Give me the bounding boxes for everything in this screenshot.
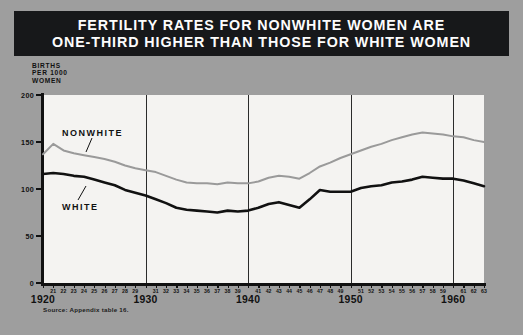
x-year-label-37: 37 bbox=[214, 288, 220, 294]
source-note: Source: Appendix table 16. bbox=[43, 306, 129, 313]
x-year-label-49: 49 bbox=[337, 288, 343, 294]
title-banner: FERTILITY RATES FOR NONWHITE WOMEN ARE O… bbox=[14, 11, 509, 56]
x-year-label-41: 41 bbox=[255, 288, 261, 294]
gridline-1930 bbox=[146, 95, 147, 283]
x-year-label-46: 46 bbox=[307, 288, 313, 294]
y-axis-caption: BIRTHS PER 1000 WOMEN bbox=[32, 62, 68, 84]
x-year-label-32: 32 bbox=[163, 288, 169, 294]
x-year-label-44: 44 bbox=[286, 288, 292, 294]
x-decade-label-1960: 1960 bbox=[441, 294, 465, 305]
y-tick-label: 0 bbox=[8, 279, 34, 288]
y-tick-label: 150 bbox=[8, 138, 34, 147]
x-tick-mark bbox=[43, 284, 44, 288]
x-year-label-58: 58 bbox=[430, 288, 436, 294]
gridline-1940 bbox=[248, 95, 249, 283]
x-tick-mark bbox=[351, 284, 352, 288]
x-decade-label-1930: 1930 bbox=[133, 294, 157, 305]
title-line-1: FERTILITY RATES FOR NONWHITE WOMEN ARE bbox=[78, 17, 446, 34]
y-tick-mark bbox=[36, 141, 41, 143]
x-year-label-27: 27 bbox=[112, 288, 118, 294]
y-tick-mark bbox=[36, 188, 41, 190]
x-year-label-57: 57 bbox=[419, 288, 425, 294]
x-year-label-63: 63 bbox=[481, 288, 487, 294]
y-tick-label: 50 bbox=[8, 232, 34, 241]
y-axis-caption-line-1: BIRTHS bbox=[32, 62, 68, 69]
y-tick-mark bbox=[36, 94, 41, 96]
x-year-label-25: 25 bbox=[91, 288, 97, 294]
gridline-1960 bbox=[453, 95, 454, 283]
y-axis-caption-line-3: WOMEN bbox=[32, 77, 68, 84]
x-year-label-48: 48 bbox=[327, 288, 333, 294]
x-axis-line bbox=[41, 283, 486, 286]
x-year-label-39: 39 bbox=[235, 288, 241, 294]
y-axis-line bbox=[41, 93, 44, 285]
plot-area bbox=[43, 95, 484, 283]
series-label-white: WHITE bbox=[62, 202, 99, 212]
x-year-label-47: 47 bbox=[317, 288, 323, 294]
y-tick-label: 200 bbox=[8, 91, 34, 100]
x-year-label-22: 22 bbox=[61, 288, 67, 294]
x-year-label-23: 23 bbox=[71, 288, 77, 294]
x-year-label-38: 38 bbox=[225, 288, 231, 294]
x-year-label-55: 55 bbox=[399, 288, 405, 294]
x-year-label-54: 54 bbox=[389, 288, 395, 294]
x-year-label-36: 36 bbox=[204, 288, 210, 294]
y-tick-mark bbox=[36, 282, 41, 284]
x-tick-mark bbox=[146, 284, 147, 288]
x-decade-label-1950: 1950 bbox=[339, 294, 363, 305]
x-year-label-43: 43 bbox=[276, 288, 282, 294]
x-year-label-52: 52 bbox=[368, 288, 374, 294]
x-year-label-21: 21 bbox=[50, 288, 56, 294]
x-year-label-29: 29 bbox=[132, 288, 138, 294]
gridline-1950 bbox=[351, 95, 352, 283]
x-year-label-33: 33 bbox=[173, 288, 179, 294]
x-year-label-56: 56 bbox=[409, 288, 415, 294]
x-year-label-24: 24 bbox=[81, 288, 87, 294]
y-tick-mark bbox=[36, 235, 41, 237]
x-year-label-51: 51 bbox=[358, 288, 364, 294]
x-year-label-62: 62 bbox=[471, 288, 477, 294]
x-decade-label-1920: 1920 bbox=[31, 294, 55, 305]
x-year-label-45: 45 bbox=[296, 288, 302, 294]
x-year-label-59: 59 bbox=[440, 288, 446, 294]
x-year-label-61: 61 bbox=[460, 288, 466, 294]
x-year-label-35: 35 bbox=[194, 288, 200, 294]
x-decade-label-1940: 1940 bbox=[236, 294, 260, 305]
x-tick-mark bbox=[453, 284, 454, 288]
series-label-nonwhite: NONWHITE bbox=[62, 128, 123, 138]
x-year-label-26: 26 bbox=[102, 288, 108, 294]
x-year-label-34: 34 bbox=[184, 288, 190, 294]
x-tick-mark bbox=[248, 284, 249, 288]
x-year-label-53: 53 bbox=[378, 288, 384, 294]
x-year-label-42: 42 bbox=[266, 288, 272, 294]
y-tick-label: 100 bbox=[8, 185, 34, 194]
y-axis-caption-line-2: PER 1000 bbox=[32, 69, 68, 76]
x-year-label-28: 28 bbox=[122, 288, 128, 294]
title-line-2: ONE-THIRD HIGHER THAN THOSE FOR WHITE WO… bbox=[52, 34, 471, 51]
x-year-label-31: 31 bbox=[153, 288, 159, 294]
chart-page: FERTILITY RATES FOR NONWHITE WOMEN ARE O… bbox=[0, 0, 523, 335]
